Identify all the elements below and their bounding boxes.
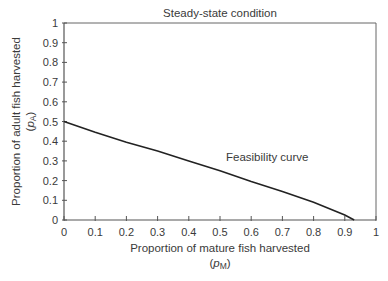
x-tick-label: 0.2 [119,226,134,238]
y-axis-ticks: 00.10.20.30.40.50.60.70.80.91 [43,17,67,226]
y-tick-label: 0.5 [43,116,58,128]
y-tick-label: 0.9 [43,37,58,49]
feasibility-curve [64,122,354,221]
x-tick-label: 0.5 [212,226,227,238]
x-tick-label: 0.4 [181,226,196,238]
chart: Steady-state condition 00.10.20.30.40.50… [0,0,388,281]
y-tick-label: 0.2 [43,175,58,187]
x-tick-label: 0.3 [150,226,165,238]
y-axis-label-symbol: (pA) [24,111,38,131]
y-tick-label: 0 [52,214,58,226]
x-tick-label: 0.6 [244,226,259,238]
x-tick-label: 0.8 [306,226,321,238]
y-tick-label: 0.3 [43,155,58,167]
y-axis-label: Proportion of adult fish harvested [10,37,22,206]
feasibility-curve-label: Feasibility curve [226,151,308,163]
y-tick-label: 0.7 [43,76,58,88]
y-tick-label: 0.6 [43,96,58,108]
x-subscript: M [220,261,227,271]
x-tick-label: 0.7 [275,226,290,238]
x-axis-label: Proportion of mature fish harvested [130,242,310,254]
plot-frame [64,23,376,220]
y-tick-label: 0.4 [43,135,58,147]
y-tick-label: 0.8 [43,56,58,68]
x-axis-label-symbol: (pM) [209,257,230,271]
x-axis-ticks: 00.10.20.30.40.50.60.70.80.91 [61,216,379,238]
chart-title: Steady-state condition [163,7,277,19]
x-tick-label: 0.9 [337,226,352,238]
x-tick-label: 0 [61,226,67,238]
x-tick-label: 1 [373,226,379,238]
y-axis-label-group: Proportion of adult fish harvested (pA) [10,37,38,206]
y-tick-label: 0.1 [43,194,58,206]
x-tick-label: 0.1 [88,226,103,238]
y-tick-label: 1 [52,17,58,29]
